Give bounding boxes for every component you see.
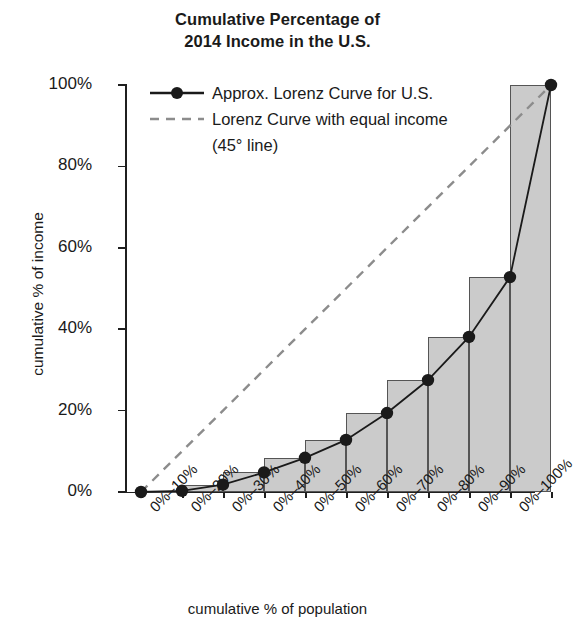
legend-entry-equal: Lorenz Curve with equal income (148, 106, 468, 132)
data-point (381, 407, 393, 419)
data-point (422, 374, 434, 386)
data-point (545, 79, 557, 91)
legend-line-marker-icon (148, 80, 206, 106)
legend-dashed-line-icon (148, 106, 206, 132)
x-axis-title: cumulative % of population (0, 600, 555, 617)
y-axis-title: cumulative % of income (29, 164, 47, 424)
data-point (463, 331, 475, 343)
chart-legend: Approx. Lorenz Curve for U.S. Lorenz Cur… (148, 80, 468, 158)
data-point (504, 271, 516, 283)
legend-entry-lorenz: Approx. Lorenz Curve for U.S. (148, 80, 468, 106)
data-point (135, 486, 147, 498)
legend-label-equal-sub: (45° line) (212, 132, 278, 158)
legend-label-lorenz: Approx. Lorenz Curve for U.S. (212, 80, 433, 106)
data-point (340, 434, 352, 446)
legend-label-equal: Lorenz Curve with equal income (212, 106, 448, 132)
legend-entry-equal-sub: (45° line) (148, 132, 468, 158)
